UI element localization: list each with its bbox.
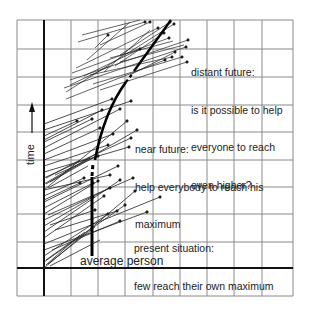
- distant-future-line-2: is it possible to help: [191, 104, 283, 117]
- near-future-line-2: help everybody to reach his: [135, 181, 263, 194]
- distant-future-line-1: distant future:: [191, 66, 283, 79]
- distant-future-individual-lines: [64, 20, 189, 99]
- near-future-individual-lines: [44, 98, 138, 190]
- present-line-1: present situation:: [134, 242, 273, 255]
- average-person-label: average person: [80, 255, 163, 268]
- near-future-line-1: near future:: [135, 143, 263, 156]
- up-arrow-icon: [29, 102, 35, 133]
- y-axis-label: time: [24, 144, 36, 165]
- present-line-2: few reach their own maximum: [134, 280, 273, 293]
